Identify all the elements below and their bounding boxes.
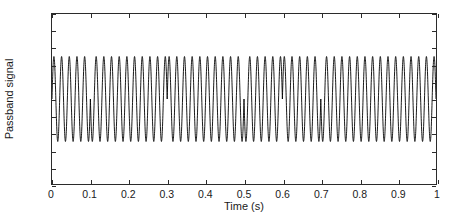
y-tick-right-3 <box>432 134 436 135</box>
y-tick-right-6 <box>432 83 436 84</box>
x-tick-top-5 <box>245 14 246 18</box>
x-tick-label-0: 0 <box>48 189 54 200</box>
x-tick-label-4: 0.4 <box>198 189 213 200</box>
x-tick-top-3 <box>168 14 169 18</box>
x-tick-top-10 <box>438 14 439 18</box>
x-tick-label-6: 0.6 <box>275 189 290 200</box>
y-tick-right-7 <box>432 66 436 67</box>
y-tick-2 <box>52 152 56 153</box>
x-tick-0 <box>52 180 53 184</box>
signal-line <box>52 14 436 184</box>
x-tick-8 <box>361 180 362 184</box>
y-tick-right-5 <box>432 100 436 101</box>
x-tick-label-2: 0.2 <box>121 189 136 200</box>
y-tick-1 <box>52 169 56 170</box>
x-tick-label-10: 1 <box>434 189 440 200</box>
x-tick-top-6 <box>284 14 285 18</box>
x-tick-label-7: 0.7 <box>314 189 329 200</box>
y-tick-6 <box>52 83 56 84</box>
x-tick-9 <box>399 180 400 184</box>
y-tick-10 <box>52 14 56 15</box>
x-tick-10 <box>438 180 439 184</box>
y-tick-right-0 <box>432 186 436 187</box>
y-axis-label-text: Passband signal <box>3 59 15 140</box>
y-tick-9 <box>52 31 56 32</box>
x-tick-2 <box>129 180 130 184</box>
x-tick-3 <box>168 180 169 184</box>
y-tick-right-9 <box>432 31 436 32</box>
x-tick-top-8 <box>361 14 362 18</box>
x-tick-label-5: 0.5 <box>237 189 252 200</box>
y-tick-right-4 <box>432 117 436 118</box>
x-tick-top-4 <box>206 14 207 18</box>
x-tick-top-2 <box>129 14 130 18</box>
y-tick-7 <box>52 66 56 67</box>
x-axis-label: Time (s) <box>51 201 437 212</box>
x-tick-label-8: 0.8 <box>352 189 367 200</box>
x-tick-top-7 <box>322 14 323 18</box>
y-tick-3 <box>52 134 56 135</box>
y-tick-right-1 <box>432 169 436 170</box>
x-tick-5 <box>245 180 246 184</box>
x-tick-6 <box>284 180 285 184</box>
passband-signal-polyline <box>52 57 436 142</box>
x-tick-label-9: 0.9 <box>391 189 406 200</box>
x-tick-7 <box>322 180 323 184</box>
y-tick-8 <box>52 48 56 49</box>
y-tick-right-2 <box>432 152 436 153</box>
y-axis-label: Passband signal <box>2 13 16 185</box>
y-tick-0 <box>52 186 56 187</box>
x-tick-4 <box>206 180 207 184</box>
y-tick-right-10 <box>432 14 436 15</box>
y-tick-right-8 <box>432 48 436 49</box>
x-tick-label-1: 0.1 <box>82 189 97 200</box>
x-tick-label-3: 0.3 <box>159 189 174 200</box>
x-tick-top-1 <box>91 14 92 18</box>
x-tick-1 <box>91 180 92 184</box>
figure-passband-signal: Passband signal -1-0.8-0.6-0.4-0.200.20.… <box>0 0 454 220</box>
plot-area <box>51 13 437 185</box>
x-tick-top-9 <box>399 14 400 18</box>
y-tick-4 <box>52 117 56 118</box>
y-tick-5 <box>52 100 56 101</box>
